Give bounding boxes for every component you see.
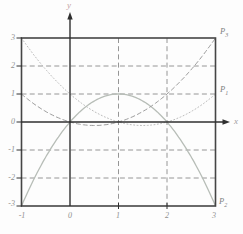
y-tick-label-neg2: -2 xyxy=(8,174,15,182)
y-tick-label-1: 1 xyxy=(11,90,15,98)
y-tick-label-2: 2 xyxy=(11,62,15,70)
curve-label-P3: P3 xyxy=(220,27,228,38)
x-tick-label-0: 0 xyxy=(68,212,72,220)
curve-label-P2: P2 xyxy=(219,197,227,208)
curve-label-P1: P1 xyxy=(220,85,228,96)
x-axis-arrow-icon xyxy=(223,119,231,124)
y-tick-label-neg1: -1 xyxy=(8,146,15,154)
curve-label-P3-sub: 3 xyxy=(225,32,228,38)
curve-label-P1-sub: 1 xyxy=(225,90,228,96)
y-tick-label-3: 3 xyxy=(11,34,15,42)
x-tick-label-neg1: -1 xyxy=(19,212,26,220)
x-tick-label-3: 3 xyxy=(212,212,216,220)
tick-marks xyxy=(17,38,168,209)
plot-canvas xyxy=(0,0,243,234)
lagrange-parabolas-figure: -1 0 1 2 3 3 2 1 0 -1 -2 -3 x y P3 P1 P2 xyxy=(0,0,243,234)
y-axis-arrow-icon xyxy=(67,12,72,20)
x-axis-label: x xyxy=(234,117,238,126)
y-tick-label-0: 0 xyxy=(11,118,15,126)
x-tick-label-1: 1 xyxy=(116,212,120,220)
x-tick-label-2: 2 xyxy=(165,212,169,220)
curve-label-P2-sub: 2 xyxy=(224,202,227,208)
y-axis-label: y xyxy=(67,1,71,10)
y-tick-label-neg3: -3 xyxy=(8,200,15,208)
